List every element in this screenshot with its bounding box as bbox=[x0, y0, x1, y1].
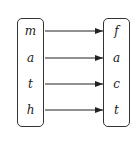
mapping-arrows bbox=[0, 0, 134, 145]
